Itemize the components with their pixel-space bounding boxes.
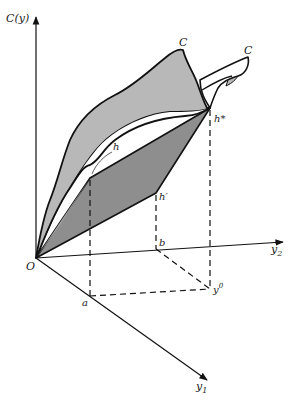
point-y0-label: y0 — [212, 282, 224, 295]
y1-axis — [36, 258, 207, 380]
point-a-label: a — [82, 297, 88, 308]
curve-c-label-2: C — [244, 44, 253, 57]
cost-curve-tip — [200, 57, 248, 108]
curve-c-label-1: C — [179, 36, 188, 49]
point-h-star-label: h* — [214, 113, 225, 124]
y1-axis-label: y1 — [195, 380, 207, 395]
point-h-prime-label: h′ — [159, 191, 168, 202]
point-h-label: h — [113, 141, 119, 152]
point-b-label: b — [159, 237, 165, 248]
c-axis-label: C(y) — [6, 12, 29, 25]
origin-label: O — [26, 260, 35, 273]
cost-surface-diagram: C(y) O y2 y1 a b y0 h h′ h* C C — [0, 0, 301, 407]
y2-axis-label: y2 — [270, 243, 282, 258]
